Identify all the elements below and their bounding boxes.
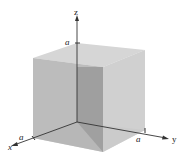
y-axis-label: y [172, 134, 177, 144]
x-arrow-icon [11, 142, 18, 146]
y-tick-label: a [136, 134, 141, 144]
z-tick-label: a [65, 37, 70, 47]
x-axis-label: x [7, 142, 12, 152]
z-axis-label: z [74, 7, 78, 17]
x-tick-label: a [19, 132, 24, 142]
y-arrow-icon [162, 136, 169, 140]
cube-diagram: z a x a y a [0, 0, 183, 166]
